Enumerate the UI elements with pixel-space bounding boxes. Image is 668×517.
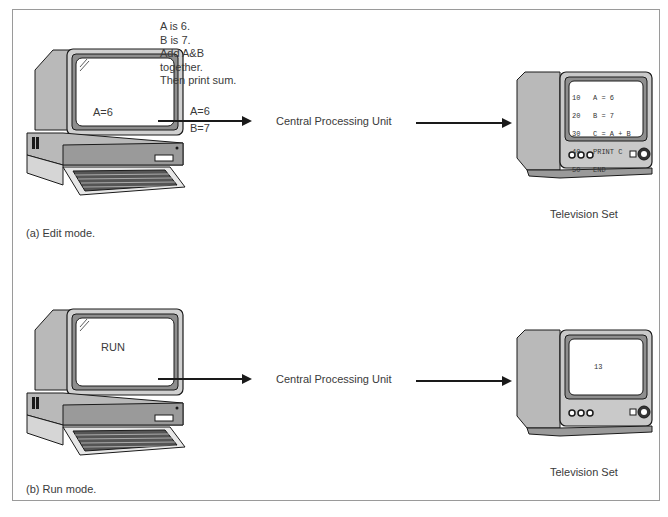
program-line: 50 END [572,158,631,176]
cpu-label: Central Processing Unit [276,373,392,386]
instruction-line: together. [160,61,236,75]
program-line: 40 PRINT C [572,140,631,158]
tv-screen-program: 10 A = 6 20 B = 7 30 C = A + B 40 PRINT … [572,86,631,176]
instruction-line: B is 7. [160,34,236,48]
computer-screen-text: A=6 [93,106,113,119]
tv-label: Television Set [550,466,618,479]
arrow-right-icon [416,375,516,387]
program-line: 30 C = A + B [572,122,631,140]
instruction-line: Then print sum. [160,74,236,88]
program-line: 20 B = 7 [572,104,631,122]
instruction-line: A is 6. [160,20,236,34]
arrow-label-a: A=6 [190,105,210,118]
instruction-line: Add A&B [160,47,236,61]
arrow-right-icon [158,373,254,385]
caption-edit-mode: (a) Edit mode. [26,227,95,240]
arrow-right-icon [416,117,516,129]
arrow-label-b: B=7 [190,122,210,135]
tv-label: Television Set [550,208,618,221]
caption-run-mode: (b) Run mode. [26,483,96,496]
cpu-label: Central Processing Unit [276,115,392,128]
tv-screen-output: 13 [594,363,602,372]
program-line: 10 A = 6 [572,86,631,104]
computer-screen-text: RUN [101,341,125,354]
instructions-note: A is 6. B is 7. Add A&B together. Then p… [160,20,236,88]
television-icon [515,328,655,438]
